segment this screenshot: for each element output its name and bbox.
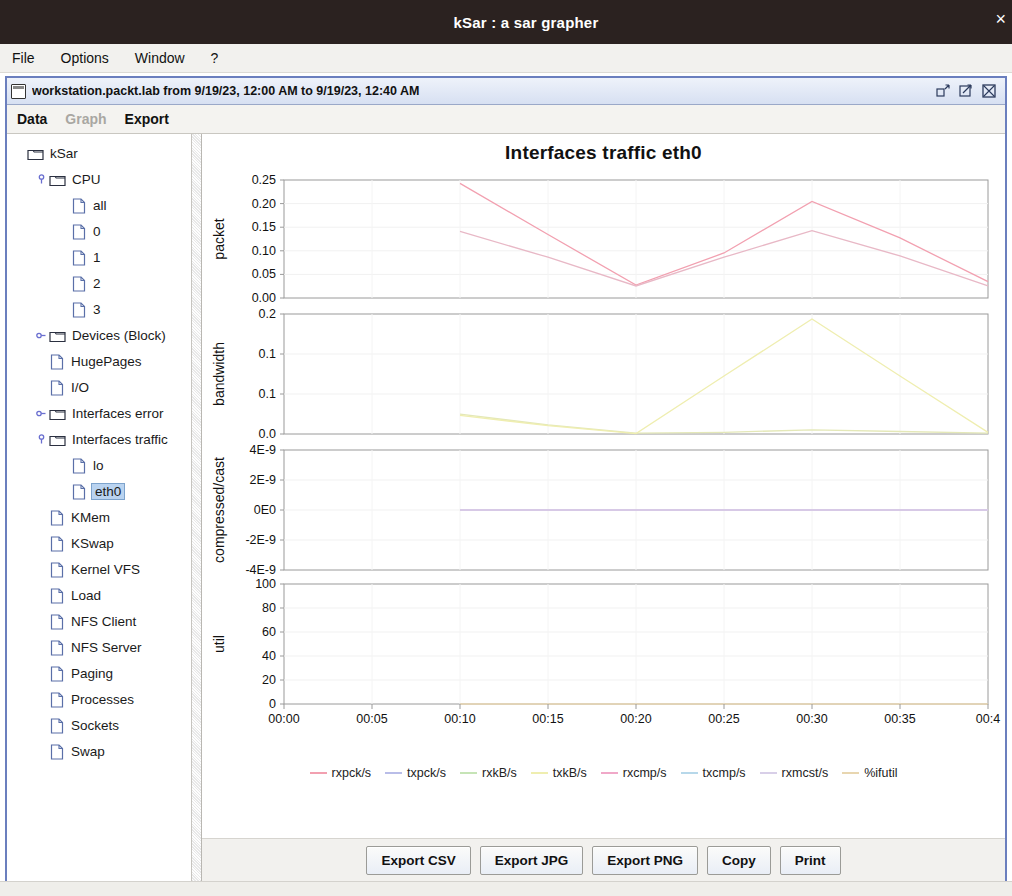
- tree-item-2[interactable]: 2: [11, 270, 201, 296]
- chart-legend: rxpck/stxpck/srxkB/stxkB/srxcmp/stxcmp/s…: [202, 766, 1005, 780]
- restore-button[interactable]: [936, 84, 951, 98]
- y-tick-label: 80: [262, 601, 276, 615]
- folder-icon: [49, 329, 65, 342]
- y-tick-label: 0.15: [252, 220, 276, 234]
- menu-item-options[interactable]: Options: [57, 48, 113, 68]
- tab-export[interactable]: Export: [125, 111, 169, 127]
- tree-item-sockets[interactable]: Sockets: [11, 712, 201, 738]
- legend-swatch: [460, 772, 477, 774]
- maximize-button[interactable]: [959, 84, 974, 98]
- y-tick-label: 0: [269, 697, 276, 711]
- tree-item-label: Sockets: [69, 717, 121, 734]
- menu-item-help[interactable]: ?: [207, 48, 223, 68]
- x-tick-label: 00:05: [356, 712, 387, 726]
- tree-item-1[interactable]: 1: [11, 244, 201, 270]
- tree-item-0[interactable]: 0: [11, 218, 201, 244]
- tree-item-label: NFS Client: [69, 613, 138, 630]
- y-axis-label: packet: [211, 218, 227, 259]
- export-jpg-button[interactable]: Export JPG: [480, 846, 584, 875]
- tree-item-kmem[interactable]: KMem: [11, 504, 201, 530]
- tree-item-cpu[interactable]: CPU: [11, 166, 201, 192]
- document-icon: [72, 458, 85, 473]
- tree-item-i-o[interactable]: I/O: [11, 374, 201, 400]
- tab-data[interactable]: Data: [17, 111, 47, 127]
- button-bar: Export CSV Export JPG Export PNG Copy Pr…: [202, 838, 1005, 881]
- y-axis-label: util: [211, 635, 227, 653]
- document-icon: [72, 250, 85, 265]
- tree-item-ksar[interactable]: kSar: [11, 140, 201, 166]
- chart-title: Interfaces traffic eth0: [202, 134, 1005, 164]
- document-icon: [72, 276, 85, 291]
- legend-item-txpck-s: txpck/s: [385, 766, 446, 780]
- expand-handle-open-icon[interactable]: [33, 174, 49, 185]
- export-csv-button[interactable]: Export CSV: [366, 846, 470, 875]
- content-split: kSarCPUall0123Devices (Block)HugePagesI/…: [7, 134, 1005, 881]
- tree-item-label: Devices (Block): [70, 327, 168, 344]
- document-icon: [72, 224, 85, 239]
- tree-item-processes[interactable]: Processes: [11, 686, 201, 712]
- tree-item-kernel-vfs[interactable]: Kernel VFS: [11, 556, 201, 582]
- tree-item-devices-block[interactable]: Devices (Block): [11, 322, 201, 348]
- x-tick-label: 00:15: [532, 712, 563, 726]
- print-button[interactable]: Print: [780, 846, 841, 875]
- document-icon: [50, 692, 63, 707]
- legend-item-txkb-s: txkB/s: [531, 766, 587, 780]
- y-tick-label: 0.05: [252, 267, 276, 281]
- window-buttons: [936, 84, 1001, 98]
- tree-item-interfaces-error[interactable]: Interfaces error: [11, 400, 201, 426]
- tree-item-3[interactable]: 3: [11, 296, 201, 322]
- plot-panel-compressed-cast: -4E-9-2E-90E02E-94E-9compressed/cast: [211, 443, 988, 577]
- document-icon: [72, 198, 85, 213]
- tree-item-lo[interactable]: lo: [11, 452, 201, 478]
- document-icon: [50, 588, 63, 603]
- tree-item-label: Processes: [69, 691, 136, 708]
- y-tick-label: 0.20: [252, 197, 276, 211]
- legend-item-rxkb-s: rxkB/s: [460, 766, 517, 780]
- menu-item-file[interactable]: File: [8, 48, 39, 68]
- tree-item-label: Kernel VFS: [69, 561, 142, 578]
- tree-item-kswap[interactable]: KSwap: [11, 530, 201, 556]
- y-axis-label: bandwidth: [211, 342, 227, 406]
- legend-swatch: [681, 772, 698, 774]
- copy-button[interactable]: Copy: [707, 846, 771, 875]
- legend-label: rxcmp/s: [623, 766, 667, 780]
- tree-item-label: KMem: [69, 509, 112, 526]
- tree-item-label: HugePages: [69, 353, 144, 370]
- os-close-icon[interactable]: ×: [995, 10, 1006, 28]
- menu-item-window[interactable]: Window: [131, 48, 189, 68]
- y-tick-label: 0.0: [259, 427, 276, 441]
- close-button[interactable]: [982, 84, 997, 98]
- x-tick-label: 00:00: [268, 712, 299, 726]
- tree-item-paging[interactable]: Paging: [11, 660, 201, 686]
- tree-item-interfaces-traffic[interactable]: Interfaces traffic: [11, 426, 201, 452]
- x-axis: 00:0000:0500:1000:1500:2000:2500:3000:35…: [268, 704, 1000, 726]
- tree-item-swap[interactable]: Swap: [11, 738, 201, 764]
- legend-label: txpck/s: [407, 766, 446, 780]
- menubar: File Options Window ?: [0, 44, 1012, 73]
- x-tick-label: 00:30: [796, 712, 827, 726]
- expand-handle-closed-icon[interactable]: [33, 408, 49, 419]
- legend-label: rxkB/s: [482, 766, 517, 780]
- chart-pane: Interfaces traffic eth0 0.000.050.100.15…: [202, 134, 1005, 881]
- expand-handle-closed-icon[interactable]: [33, 330, 49, 341]
- tree-item-label: 2: [91, 275, 103, 292]
- tree-item-eth0[interactable]: eth0: [11, 478, 201, 504]
- document-icon: [50, 744, 63, 759]
- expand-handle-open-icon[interactable]: [33, 434, 49, 445]
- resource-tree[interactable]: kSarCPUall0123Devices (Block)HugePagesI/…: [7, 134, 201, 764]
- legend-label: txkB/s: [553, 766, 587, 780]
- tree-item-nfs-server[interactable]: NFS Server: [11, 634, 201, 660]
- tree-item-all[interactable]: all: [11, 192, 201, 218]
- tree-item-hugepages[interactable]: HugePages: [11, 348, 201, 374]
- legend-item-rxcmp-s: rxcmp/s: [601, 766, 667, 780]
- x-tick-label: 00:35: [884, 712, 915, 726]
- legend-swatch: [385, 772, 402, 774]
- tree-item-label: Swap: [69, 743, 107, 760]
- export-png-button[interactable]: Export PNG: [592, 846, 698, 875]
- y-tick-label: 0E0: [254, 503, 276, 517]
- tree-item-load[interactable]: Load: [11, 582, 201, 608]
- tree-item-label: Interfaces error: [70, 405, 166, 422]
- tree-scrollbar[interactable]: [191, 134, 201, 881]
- y-tick-label: 2E-9: [250, 473, 276, 487]
- tree-item-nfs-client[interactable]: NFS Client: [11, 608, 201, 634]
